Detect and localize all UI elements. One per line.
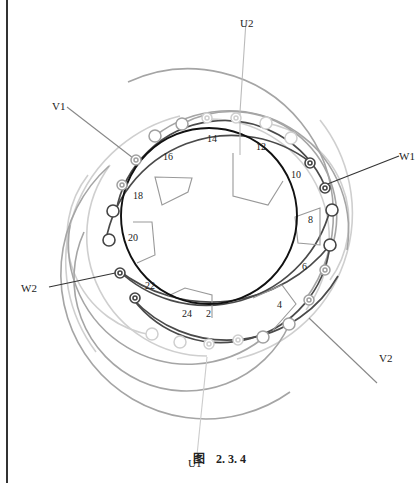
- slot-label-8: 8: [308, 214, 313, 225]
- slot-label-18: 18: [133, 190, 143, 201]
- terminal-label-w1: W1: [399, 150, 415, 162]
- figure-caption-prefix: 图: [193, 452, 205, 466]
- terminal-label-v1: V1: [52, 100, 65, 112]
- slot-label-24: 24: [182, 308, 192, 319]
- lead-lines: [49, 21, 399, 455]
- slot-label-20: 20: [128, 232, 138, 243]
- stator-circle: [121, 128, 297, 304]
- figure-caption-number: 2. 3. 4: [216, 452, 246, 466]
- slot-label-14: 14: [207, 133, 217, 144]
- winding-diagram: 2 4 6 8 10 12 14 16 18 20 22 24 U2 V1 W1…: [0, 0, 417, 483]
- phase-w-coils: [106, 121, 338, 343]
- slot-label-2: 2: [206, 308, 211, 319]
- slot-label-16: 16: [163, 151, 173, 162]
- slot-label-10: 10: [291, 169, 301, 180]
- slot-label-12: 12: [256, 141, 266, 152]
- terminal-label-v2: V2: [379, 352, 392, 364]
- terminal-label-w2: W2: [21, 282, 37, 294]
- slot-label-22: 22: [145, 280, 155, 291]
- terminal-circles: [103, 113, 338, 349]
- terminal-label-u2: U2: [240, 17, 253, 29]
- slot-label-4: 4: [277, 299, 282, 310]
- slot-label-6: 6: [302, 261, 307, 272]
